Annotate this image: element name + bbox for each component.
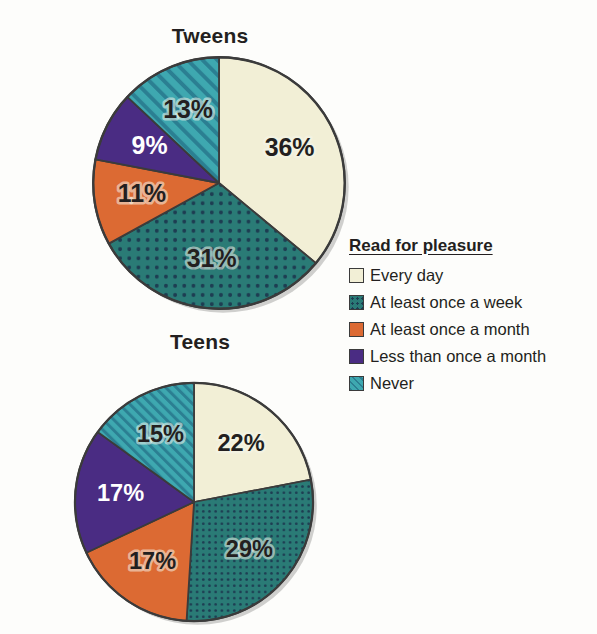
legend-item-label: At least once a month <box>370 321 530 338</box>
pie-slice-label: 17% <box>129 548 176 574</box>
legend-item[interactable]: At least once a week <box>349 290 593 314</box>
pie-slice-label: 36% <box>265 133 315 161</box>
legend-item-label: Never <box>370 375 414 392</box>
pie-slice-label: 9% <box>132 131 168 159</box>
legend-item[interactable]: Never <box>349 371 593 395</box>
teens-pie-svg: 22%29%17%17%15% <box>70 378 318 626</box>
tweens-chart-title: Tweens <box>0 24 420 48</box>
legend-swatch-icon <box>349 376 364 391</box>
pie-slice-label: 29% <box>226 536 273 562</box>
legend-swatch-icon <box>349 268 364 283</box>
teens-chart-title: Teens <box>0 330 400 354</box>
legend-item[interactable]: Less than once a month <box>349 344 593 368</box>
legend-swatch-icon <box>349 295 364 310</box>
legend-swatch-icon <box>349 322 364 337</box>
teens-pie-chart: 22%29%17%17%15% <box>70 378 318 626</box>
pie-slice-label: 22% <box>217 430 264 456</box>
pie-slice-label: 15% <box>137 421 184 447</box>
pie-slice-label: 11% <box>118 179 166 207</box>
tweens-pie-chart: 36%31%11%9%13% <box>88 52 350 314</box>
legend-item[interactable]: At least once a month <box>349 317 593 341</box>
chart-legend: Read for pleasure Every dayAt least once… <box>349 236 593 398</box>
legend-items: Every dayAt least once a weekAt least on… <box>349 263 593 395</box>
legend-item-label: Less than once a month <box>370 348 546 365</box>
legend-item-label: At least once a week <box>370 294 522 311</box>
pie-slice-label: 31% <box>187 244 237 272</box>
pie-slice-label: 17% <box>97 480 144 506</box>
tweens-pie-svg: 36%31%11%9%13% <box>88 52 350 314</box>
pie-chart-figure: Tweens 36%31%11%9%13% Teens 22%29%17%17%… <box>0 0 597 634</box>
legend-item[interactable]: Every day <box>349 263 593 287</box>
legend-title: Read for pleasure <box>349 236 593 256</box>
legend-item-label: Every day <box>370 267 443 284</box>
legend-swatch-icon <box>349 349 364 364</box>
pie-slice-label: 13% <box>163 95 213 123</box>
